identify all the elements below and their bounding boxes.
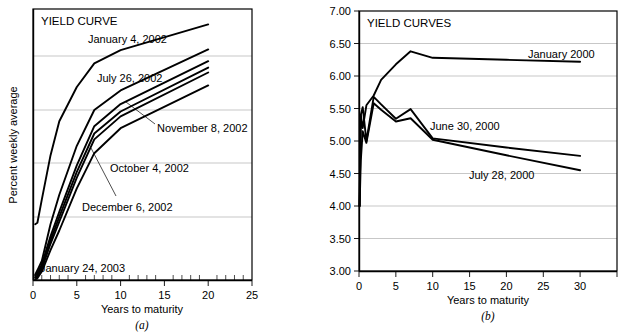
ytick-6-50: 6.50: [330, 38, 351, 50]
panel-b-yticks: [354, 11, 359, 271]
xtick-15: 15: [463, 280, 475, 292]
panel-a-xticks: [33, 281, 252, 287]
panel-a-frame: [33, 9, 252, 281]
curve-june-30-2000: [360, 97, 580, 206]
panel-b-svg: YIELD CURVES January 2000 June 30, 2000 …: [321, 0, 642, 332]
label-july-28-2000: July 28, 2000: [469, 169, 534, 181]
xtick-15: 15: [158, 289, 170, 301]
curve-january-24-2003: [35, 85, 208, 279]
label-december-6-2002: December 6, 2002: [82, 201, 173, 213]
ytick-4-50: 4.50: [330, 168, 351, 180]
xtick-25: 25: [537, 280, 549, 292]
label-june-30-2000: June 30, 2000: [430, 120, 500, 132]
ytick-6-00: 6.00: [330, 70, 351, 82]
curve-july-28-2000: [360, 103, 580, 206]
xtick-5: 5: [393, 280, 399, 292]
panel-a-ylabel: Percent weekly average: [7, 86, 19, 203]
xtick-0: 0: [356, 280, 362, 292]
panel-b-caption: (b): [481, 310, 495, 323]
xtick-25: 25: [246, 289, 258, 301]
panel-b-title: YIELD CURVES: [367, 17, 451, 29]
xtick-20: 20: [500, 280, 512, 292]
panel-a-svg: YIELD CURVE January 4, 2002 July 26, 200…: [0, 0, 321, 332]
xtick-20: 20: [202, 289, 214, 301]
ytick-7-00: 7.00: [330, 5, 351, 17]
ytick-4-00: 4.00: [330, 200, 351, 212]
xtick-0: 0: [30, 289, 36, 301]
label-january-2000: January 2000: [528, 48, 595, 60]
panel-a-curves: [35, 24, 208, 279]
panel-b-ytick-labels: 3.00 3.50 4.00 4.50 5.00 5.50 6.00 6.50 …: [330, 5, 351, 277]
panel-b-xtick-labels: 0 5 10 15 20 25 30: [356, 280, 586, 292]
xtick-10: 10: [114, 289, 126, 301]
panel-b-gridlines: [359, 44, 617, 239]
ytick-3-50: 3.50: [330, 233, 351, 245]
panel-b-ylabel: Percent: [321, 126, 322, 164]
ytick-5-00: 5.00: [330, 135, 351, 147]
panel-b-yield-curves: YIELD CURVES January 2000 June 30, 2000 …: [321, 0, 642, 332]
xtick-30: 30: [574, 280, 586, 292]
label-july-26-2002: July 26, 2002: [97, 72, 162, 84]
label-october-4-2002: October 4, 2002: [110, 162, 189, 174]
panel-a-xtick-labels: 0 5 10 15 20 25: [30, 289, 258, 301]
label-january-4-2002: January 4, 2002: [88, 33, 167, 45]
panel-b-xticks: [359, 272, 617, 278]
panel-a-caption: (a): [135, 319, 149, 332]
ytick-5-50: 5.50: [330, 103, 351, 115]
xtick-10: 10: [427, 280, 439, 292]
panel-b-xlabel: Years to maturity: [447, 294, 530, 306]
label-january-24-2003: January 24, 2003: [40, 262, 125, 274]
xtick-5: 5: [74, 289, 80, 301]
ytick-3-00: 3.00: [330, 265, 351, 277]
panel-a-yield-curve: YIELD CURVE January 4, 2002 July 26, 200…: [0, 0, 321, 332]
panel-a-xlabel: Years to maturity: [101, 303, 184, 315]
yield-curve-figure: YIELD CURVE January 4, 2002 July 26, 200…: [0, 0, 642, 332]
label-november-8-2002: November 8, 2002: [157, 122, 248, 134]
panel-a-title: YIELD CURVE: [41, 15, 118, 27]
